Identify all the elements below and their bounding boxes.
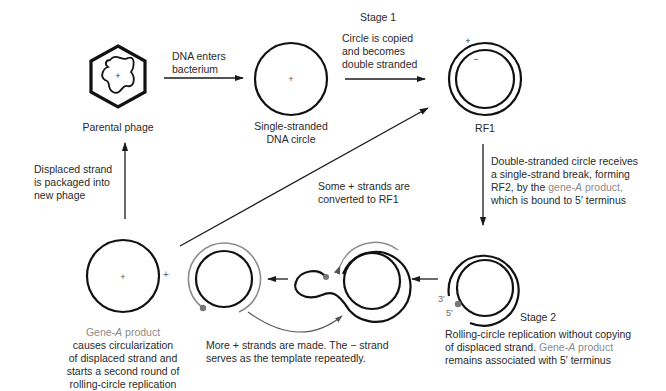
template-circle [182, 231, 260, 312]
rf2-circle [449, 256, 519, 326]
circularized-strand: + + [87, 240, 169, 312]
more-strands-label: More + strands are made. The − strandser… [206, 339, 388, 365]
stage1-label: Stage 1 [360, 11, 396, 24]
parental-phage-icon: + [91, 46, 145, 107]
stage2-label: Stage 2 [520, 311, 556, 324]
arrow-repeat-curve [248, 312, 342, 332]
three-prime-label: 3′ [438, 293, 445, 306]
circularization-label: Gene-A product causes circularization of… [58, 326, 188, 391]
svg-text:+: + [115, 71, 120, 81]
packaged-label: Displaced strandis packaged intonew phag… [34, 163, 112, 202]
some-converted-label: Some + strands areconverted to RF1 [318, 180, 410, 206]
svg-text:+: + [288, 74, 293, 84]
single-stranded-circle: + [255, 43, 327, 115]
svg-text:+: + [163, 269, 169, 280]
copied-label: Circle is copiedand becomesdouble strand… [342, 32, 417, 71]
svg-text:−: − [473, 54, 478, 64]
rolling-description: Rolling-circle replication without copyi… [445, 328, 631, 367]
dna-enters-label: DNA entersbacterium [172, 50, 226, 76]
rf1-circle: + − [449, 36, 521, 115]
svg-text:+: + [120, 272, 125, 282]
rolling-circle-figure [295, 242, 410, 322]
parental-phage-label: Parental phage [78, 121, 158, 134]
rf1-label: RF1 [465, 122, 505, 135]
ss-circle-label: Single-strandedDNA circle [251, 120, 331, 146]
five-prime-label: 5′ [446, 307, 453, 320]
rf2-description: Double-stranded circle receives a single… [491, 155, 638, 207]
svg-text:+: + [465, 36, 470, 46]
